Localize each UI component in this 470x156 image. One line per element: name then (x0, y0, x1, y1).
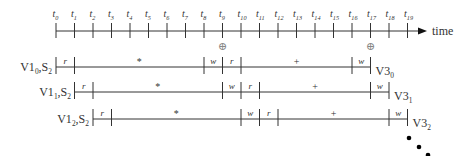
stage-label-read: r (63, 56, 67, 66)
tick-label: t0 (53, 8, 60, 21)
stage-label-multiply: * (174, 108, 179, 119)
stage-label-read: r (267, 108, 271, 118)
stage-label-read: r (100, 108, 104, 118)
tick-label: t13 (293, 8, 302, 21)
pipeline-row: r*wr+wV12,S2V32 (57, 108, 431, 132)
row-input-label: V11,S2 (39, 85, 71, 101)
pipeline-rows: r*wr+wV10,S2V30r*wr+wV11,S2V31r*wr+wV12,… (20, 56, 431, 132)
stage-label-read: r (82, 81, 86, 91)
tick-label: t11 (256, 8, 265, 21)
tick-label: t5 (145, 8, 151, 21)
stage-label-read: r (230, 56, 234, 66)
row-input-label: V12,S2 (57, 112, 89, 128)
pipeline-timing-diagram: timet0t1t2t3t4t5t6t7t8t9t10t11t12t13t14t… (0, 0, 470, 156)
tick-label: t7 (182, 8, 189, 21)
stage-label-multiply: * (155, 81, 160, 92)
tick-label: t19 (404, 8, 413, 21)
stage-label-add: + (331, 108, 337, 119)
stage-label-write: w (229, 81, 235, 91)
row-output-label: V30 (376, 64, 395, 80)
row-output-label: V32 (413, 116, 432, 132)
stage-label-write: w (358, 56, 364, 66)
tick-label: t10 (238, 8, 248, 21)
stage-label-write: w (247, 108, 253, 118)
stage-label-add: + (294, 56, 300, 67)
tick-label: t15 (330, 8, 339, 21)
tick-label: t16 (349, 8, 359, 21)
stage-label-write: w (210, 56, 216, 66)
continuation-dots-icon (407, 136, 431, 156)
stage-label-read: r (248, 81, 252, 91)
tick-label: t2 (90, 8, 96, 21)
circled-plus-icon: ⊕ (366, 40, 375, 52)
pipeline-row: r*wr+wV11,S2V31 (39, 81, 412, 105)
tick-label: t8 (201, 8, 208, 21)
tick-label: t17 (367, 8, 377, 21)
stage-label-multiply: * (137, 56, 142, 67)
tick-label: t18 (386, 8, 396, 21)
arrow-right-icon (418, 28, 427, 35)
tick-label: t1 (71, 8, 77, 21)
row-output-label: V31 (394, 89, 413, 105)
tick-label: t3 (108, 8, 114, 21)
stage-label-write: w (377, 81, 383, 91)
stage-label-add: + (312, 81, 318, 92)
time-axis-label: time (432, 24, 453, 38)
operator-markers: ⊕⊕ (218, 40, 375, 52)
row-input-label: V10,S2 (20, 60, 52, 76)
tick-label: t12 (275, 8, 284, 21)
tick-label: t6 (164, 8, 171, 21)
tick-label: t9 (219, 8, 225, 21)
stage-label-write: w (395, 108, 401, 118)
tick-label: t14 (312, 8, 321, 21)
timeline-axis: timet0t1t2t3t4t5t6t7t8t9t10t11t12t13t14t… (53, 8, 454, 38)
tick-label: t4 (127, 8, 133, 21)
circled-plus-icon: ⊕ (218, 40, 227, 52)
pipeline-row: r*wr+wV10,S2V30 (20, 56, 394, 80)
